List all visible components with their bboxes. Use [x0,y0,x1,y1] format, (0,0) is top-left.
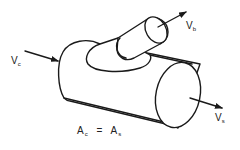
outlet-velocity-label: Vs [215,113,225,124]
outlet-velocity-sub: s [222,118,225,124]
inlet-arrow [25,51,58,61]
branch-velocity-main: V [186,20,193,31]
inlet-velocity-label: Vc [11,56,21,67]
area-equation: Ac = As [77,126,122,137]
area-rhs-sub: s [118,131,122,137]
area-lhs-sub: c [85,131,89,137]
inlet-velocity-sub: c [18,61,21,67]
area-lhs: A [77,125,85,136]
branch-arrow [158,12,186,27]
branch-velocity-sub: b [193,26,196,32]
branch-velocity-label: Vb [186,21,196,32]
area-equals: = [96,125,103,136]
outlet-velocity-main: V [215,112,222,123]
inlet-velocity-main: V [11,55,18,66]
